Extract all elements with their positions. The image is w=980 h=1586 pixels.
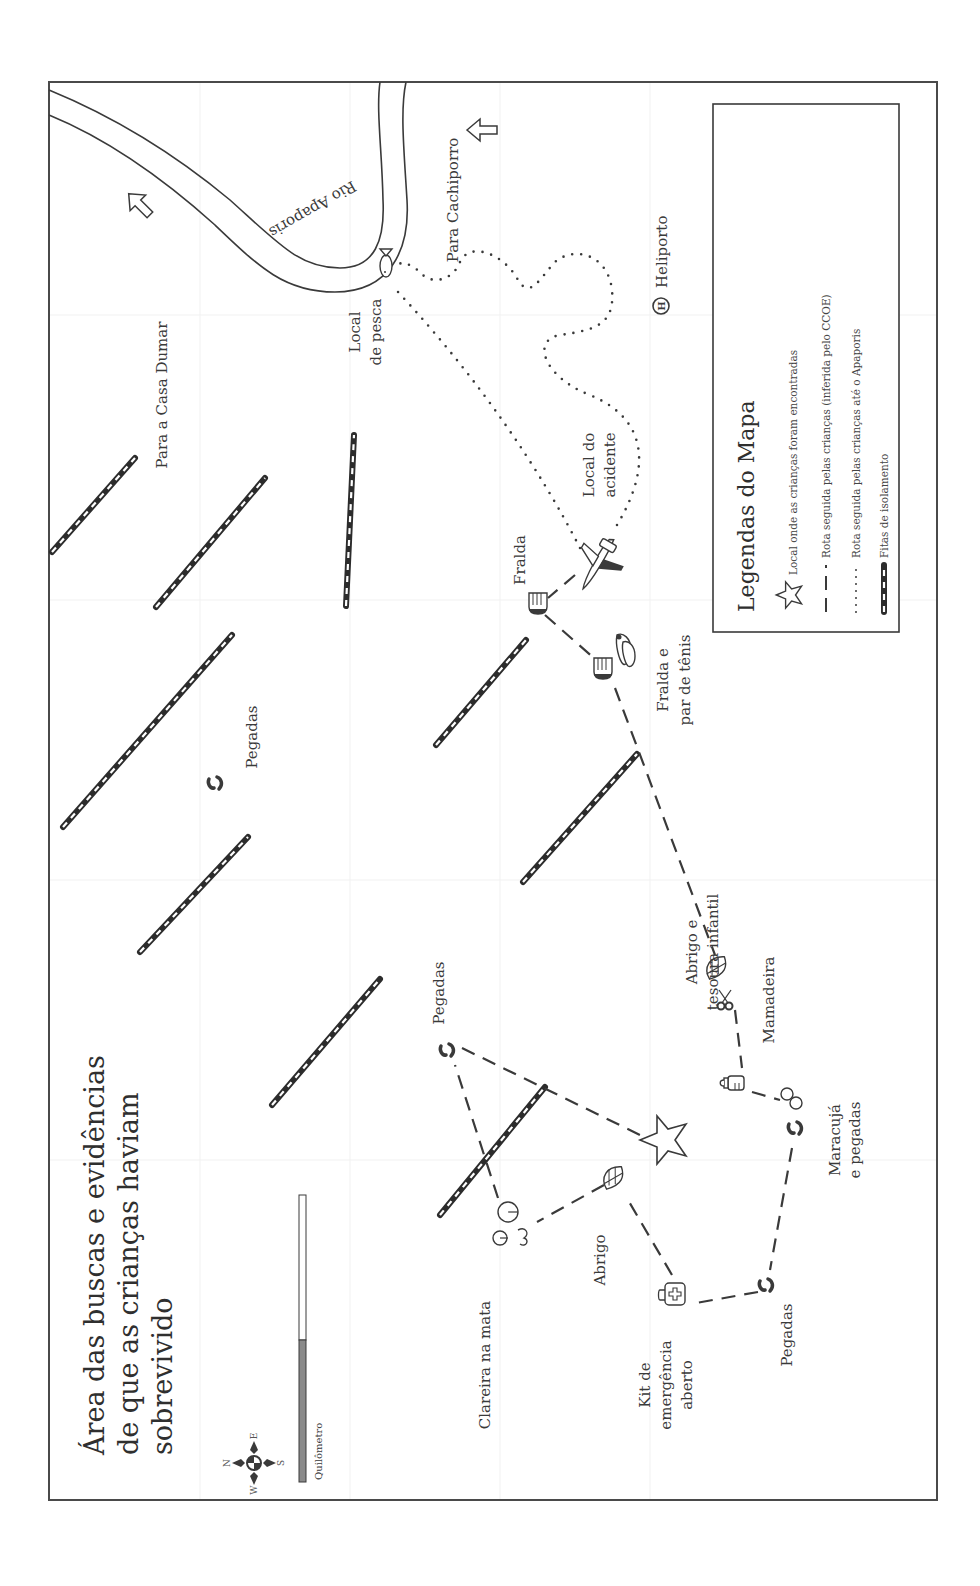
label-maracuja-2: e pegadas — [846, 1102, 864, 1179]
label-fralda: Fralda — [511, 535, 529, 585]
legend-label: Local onde as crianças foram encontradas — [787, 350, 799, 575]
label-pegadas-center: Pegadas — [243, 705, 261, 768]
title-line-3: sobrevivido — [147, 1297, 178, 1455]
baby-bottle-icon — [720, 1076, 744, 1090]
title-line-1: Área das buscas e evidências — [78, 1055, 110, 1456]
svg-text:H: H — [656, 301, 667, 310]
scale-label: Quilômetro — [313, 1423, 324, 1480]
label-heliporto: Heliporto — [653, 216, 671, 288]
label-kit-1: Kit de — [636, 1362, 654, 1407]
tape-line — [140, 837, 248, 952]
label-kit-2: emergência — [657, 1340, 675, 1429]
tape-line — [52, 458, 135, 552]
label-clareira: Clareira na mata — [476, 1301, 494, 1430]
tape-line — [272, 979, 380, 1105]
label-maracuja-1: Maracujá — [826, 1104, 844, 1176]
crashed-plane-icon — [564, 528, 633, 601]
passion-fruit-icon — [781, 1088, 802, 1109]
label-local-acidente-1: Local do — [580, 433, 598, 498]
map-title: Área das buscas e evidências de que as c… — [78, 1055, 178, 1456]
label-abrigo-tesoura-2: tesoura infantil — [704, 894, 722, 1011]
compass-s: S — [276, 1460, 286, 1466]
sneakers-icon — [616, 634, 635, 666]
tape-line — [440, 1087, 545, 1215]
tape-line — [436, 640, 526, 745]
scale-bar: Quilômetro — [299, 1195, 324, 1482]
helipad-icon: H — [653, 298, 669, 314]
label-local-pesca-2: de pesca — [367, 299, 385, 366]
compass-n: N — [222, 1459, 232, 1467]
label-pegadas-top: Pegadas — [430, 961, 448, 1024]
direction-cachiporro: Para Cachiporro — [444, 138, 462, 263]
footprints-icon — [759, 1279, 772, 1291]
tape-line — [63, 635, 232, 827]
compass-rose-icon: N S E W — [222, 1433, 286, 1495]
tape-line — [346, 435, 354, 606]
label-fralda-tenis-1: Fralda e — [654, 648, 672, 712]
diaper-icon — [529, 593, 547, 614]
search-area-map: Rio Apaporis Para a Casa Dumar Para Cach… — [0, 0, 980, 1586]
label-abrigo-tesoura-1: Abrigo e — [683, 920, 701, 986]
footprints-icon — [440, 1044, 453, 1056]
label-abrigo: Abrigo — [591, 1234, 609, 1286]
label-local-pesca-1: Local — [346, 311, 364, 352]
label-fralda-tenis-2: par de tênis — [676, 635, 694, 726]
route-to-apaporis — [395, 251, 639, 548]
compass-e: E — [249, 1433, 259, 1440]
label-mamadeira: Mamadeira — [760, 957, 778, 1044]
tape-line — [523, 754, 637, 882]
clearing-trees-icon — [493, 1202, 527, 1245]
footprints-icon — [788, 1122, 801, 1134]
arrow-cachiporro-icon — [467, 119, 497, 141]
legend-label: Rota seguida pelas crianças (inferida pe… — [820, 294, 832, 558]
legend-label: Fitas de isolamento — [878, 454, 890, 558]
diaper-icon — [594, 658, 612, 679]
fish-icon — [380, 249, 392, 277]
tape-line — [156, 478, 265, 607]
arrow-casa-dumar-icon — [121, 186, 158, 223]
direction-casa-dumar: Para a Casa Dumar — [153, 321, 171, 469]
legend-title: Legendas do Mapa — [734, 400, 759, 612]
route-inferred — [455, 575, 792, 1303]
compass-w: W — [249, 1485, 259, 1495]
legend-label: Rota seguida pelas crianças até o Apapor… — [850, 329, 862, 558]
title-line-2: de que as crianças haviam — [113, 1093, 144, 1456]
label-kit-3: aberto — [678, 1360, 696, 1410]
footprints-icon — [208, 777, 221, 789]
label-pegadas-bottom: Pegadas — [778, 1303, 796, 1366]
river-label: Rio Apaporis — [266, 177, 360, 241]
map-legend: Legendas do Mapa Local onde as crianças … — [713, 104, 899, 632]
label-local-acidente-2: acidente — [601, 432, 619, 497]
first-aid-kit-icon — [659, 1283, 686, 1305]
star-icon — [640, 1116, 686, 1164]
